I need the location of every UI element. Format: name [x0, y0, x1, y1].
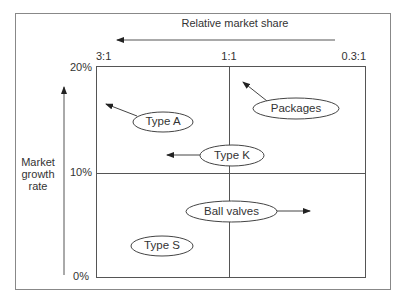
packages-label: Packages [253, 98, 339, 119]
ball-valves-label: Ball valves [186, 201, 277, 222]
type-s-label: Type S [131, 236, 193, 256]
type-a-label: Type A [133, 112, 193, 132]
x-axis-title: Relative market share [160, 17, 310, 30]
x-tick-3-1: 3:1 [96, 50, 111, 63]
y-axis-title-line-3: rate [16, 180, 60, 193]
y-tick-0: 0% [54, 270, 89, 283]
y-tick-20: 20% [54, 61, 92, 74]
x-tick-1-1: 1:1 [214, 50, 244, 63]
x-tick-0-3-1: 0.3:1 [326, 50, 366, 63]
type-k-label: Type K [200, 145, 264, 166]
